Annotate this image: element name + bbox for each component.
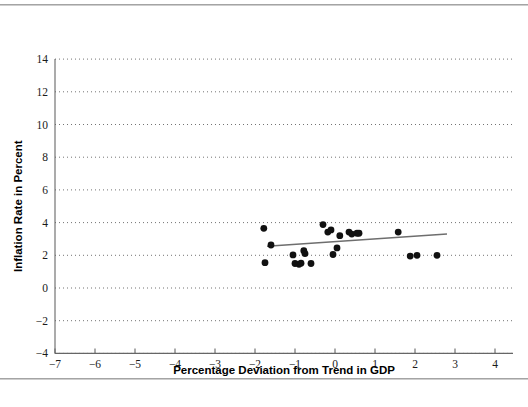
data-point <box>407 253 414 260</box>
x-tick-label--5: −5 <box>129 358 141 370</box>
data-point <box>328 227 335 234</box>
y-tick-labels: −4−202468101214 <box>36 53 49 359</box>
x-tick-label--7: −7 <box>49 358 61 370</box>
data-point <box>298 260 305 267</box>
y-tick-label-4: 4 <box>42 217 48 229</box>
data-point <box>320 221 327 228</box>
data-point <box>434 252 441 259</box>
scatter-plot: −4−202468101214 −7−6−5−4−3−2−101234 Perc… <box>0 0 528 407</box>
y-tick-label--2: −2 <box>36 315 48 327</box>
data-point <box>334 245 341 252</box>
x-tick-label-4: 4 <box>492 358 498 370</box>
x-tick-label-2: 2 <box>412 358 418 370</box>
y-tick-label--4: −4 <box>36 347 48 359</box>
data-point <box>414 252 421 259</box>
data-point <box>302 250 309 257</box>
y-tick-label-8: 8 <box>42 151 48 163</box>
x-tick-label-3: 3 <box>452 358 458 370</box>
data-point <box>336 232 343 239</box>
y-tick-label-14: 14 <box>37 53 49 65</box>
gridlines-group <box>55 59 513 353</box>
data-point <box>290 252 297 259</box>
data-point <box>260 225 267 232</box>
data-point <box>308 260 315 267</box>
figure-container: −4−202468101214 −7−6−5−4−3−2−101234 Perc… <box>0 0 528 407</box>
x-tick-label--6: −6 <box>89 358 101 370</box>
data-point <box>330 251 337 258</box>
data-point <box>262 259 269 266</box>
x-axis-title: Percentage Deviation from Trend in GDP <box>173 364 395 376</box>
data-point <box>356 230 363 237</box>
x-axis <box>55 348 513 353</box>
y-tick-label-2: 2 <box>42 249 48 261</box>
y-tick-label-10: 10 <box>37 119 49 131</box>
data-point <box>268 242 275 249</box>
y-tick-label-0: 0 <box>42 282 48 294</box>
y-tick-label-6: 6 <box>42 184 48 196</box>
y-axis-title: Inflation Rate in Percent <box>12 140 24 272</box>
data-point <box>395 229 402 236</box>
y-tick-label-12: 12 <box>37 86 49 98</box>
